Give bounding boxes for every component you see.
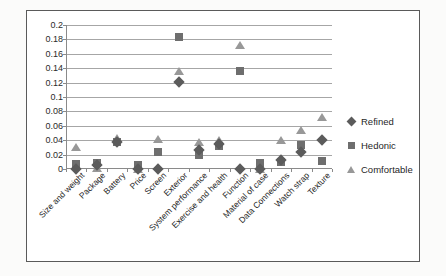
plot-area (66, 25, 332, 169)
legend-marker (345, 142, 357, 149)
legend-label: Hedonic (361, 140, 396, 151)
legend-marker (345, 166, 357, 173)
gridline (66, 111, 332, 112)
gridline (66, 126, 332, 127)
gridline (66, 54, 332, 55)
y-axis-tick-label: 0.2 (50, 21, 63, 30)
legend-marker (345, 118, 357, 125)
y-axis-tick-label: 0.04 (45, 136, 63, 145)
gridline (66, 83, 332, 84)
y-axis-tick-label: 0.06 (45, 121, 63, 130)
legend-item-comfortable: Comfortable (345, 157, 439, 181)
data-point-square (236, 67, 244, 75)
data-point-triangle (174, 67, 184, 75)
legend-item-hedonic: Hedonic (345, 133, 439, 157)
legend-item-refined: Refined (345, 109, 439, 133)
x-axis-category-label: Battery (102, 171, 127, 196)
x-axis-line (66, 168, 332, 169)
y-axis-tick-label: 0.18 (45, 35, 63, 44)
legend-square-icon (348, 142, 355, 149)
gridline (66, 68, 332, 69)
y-axis-tick-label: 0.1 (50, 93, 63, 102)
scanned-page: 0.20.180.160.140.120.10.080.060.040.020 … (0, 0, 446, 276)
data-point-triangle (153, 135, 163, 143)
data-point-triangle (71, 143, 81, 151)
legend-label: Refined (361, 116, 394, 127)
data-point-triangle (317, 113, 327, 121)
x-axis-category-labels: Size and weightPackageBatteryPriceScreen… (66, 171, 332, 269)
chart-figure-frame: 0.20.180.160.140.120.10.080.060.040.020 … (26, 10, 420, 262)
gridline (66, 97, 332, 98)
data-point-square (154, 148, 162, 156)
y-axis-tick-label: 0.14 (45, 64, 63, 73)
gridline (66, 39, 332, 40)
data-point-triangle (235, 41, 245, 49)
data-point-triangle (276, 136, 286, 144)
gridline (66, 25, 332, 26)
x-axis-tick (332, 169, 333, 172)
data-point-square (318, 157, 326, 165)
y-axis-tick-label: 0.12 (45, 78, 63, 87)
y-axis-tick-label: 0.02 (45, 150, 63, 159)
chart-legend: RefinedHedonicComfortable (345, 109, 439, 181)
legend-label: Comfortable (361, 164, 413, 175)
data-point-triangle (296, 126, 306, 134)
x-axis-category-label: Texture (306, 171, 332, 197)
legend-diamond-icon (346, 116, 356, 126)
data-point-square (175, 33, 183, 41)
y-axis-line (66, 25, 67, 169)
y-axis-tick-label: 0.08 (45, 107, 63, 116)
y-axis-labels: 0.20.180.160.140.120.10.080.060.040.020 (27, 25, 63, 169)
legend-triangle-icon (347, 166, 355, 173)
y-axis-tick-label: 0.16 (45, 49, 63, 58)
